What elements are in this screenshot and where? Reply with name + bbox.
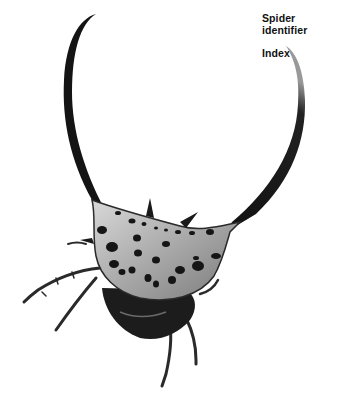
spider-illustration xyxy=(0,0,337,402)
left-horn xyxy=(64,14,104,208)
right-horn xyxy=(226,46,305,232)
